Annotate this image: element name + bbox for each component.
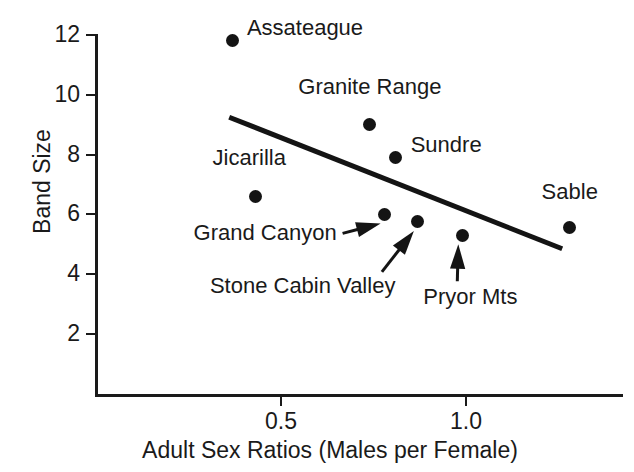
data-point-granite-range[interactable] (363, 118, 376, 131)
data-label-stone-cabin-valley: Stone Cabin Valley (210, 275, 396, 297)
y-axis-line (95, 34, 98, 397)
arrow-head-stone-cabin-valley (393, 231, 414, 255)
x-axis-line (95, 394, 623, 397)
data-label-grand-canyon: Grand Canyon (194, 222, 337, 244)
arrow-head-grand-canyon (355, 222, 381, 237)
data-label-pryor-mts: Pryor Mts (423, 286, 517, 308)
x-tick-0.5 (280, 396, 282, 406)
y-tick-label-12: 12 (20, 23, 80, 46)
data-point-grand-canyon[interactable] (378, 208, 391, 221)
x-tick-1.0 (465, 396, 467, 406)
data-point-sundre[interactable] (389, 151, 402, 164)
y-tick-12 (86, 34, 96, 36)
x-axis-title: Adult Sex Ratios (Males per Female) (95, 437, 565, 464)
arrow-shaft-stone-cabin-valley (382, 248, 400, 272)
x-tick-label-0.5: 0.5 (241, 410, 321, 433)
data-point-sable[interactable] (563, 221, 576, 234)
data-point-jicarilla[interactable] (249, 190, 262, 203)
y-tick-8 (86, 154, 96, 156)
scatter-plot-figure: 24681012 0.51.0 Band Size Adult Sex Rati… (0, 0, 634, 472)
arrow-head-pryor-mts (450, 244, 465, 269)
data-point-stone-cabin-valley[interactable] (411, 215, 424, 228)
data-point-pryor-mts[interactable] (456, 229, 469, 242)
data-label-granite-range: Granite Range (298, 76, 441, 98)
data-label-jicarilla: Jicarilla (213, 147, 286, 169)
data-label-sable: Sable (542, 181, 598, 203)
arrow-shaft-grand-canyon (343, 229, 360, 233)
y-tick-4 (86, 273, 96, 275)
y-tick-label-2: 2 (20, 322, 80, 345)
y-tick-6 (86, 213, 96, 215)
data-point-assateague[interactable] (226, 34, 239, 47)
x-tick-label-1.0: 1.0 (426, 410, 506, 433)
data-label-sundre: Sundre (411, 134, 482, 156)
y-tick-10 (86, 94, 96, 96)
data-label-assateague: Assateague (247, 17, 363, 39)
y-tick-2 (86, 333, 96, 335)
y-axis-title: Band Size (29, 92, 56, 272)
